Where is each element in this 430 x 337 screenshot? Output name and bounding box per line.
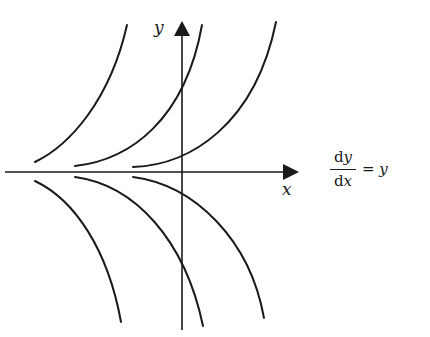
x-axis-label: x	[282, 179, 292, 199]
upper-curve-1	[35, 25, 127, 162]
fraction-bar	[330, 169, 356, 170]
lower-curve-1	[35, 181, 121, 322]
lower-curve-2	[75, 177, 203, 326]
equation-denominator: dx	[328, 172, 358, 190]
slope-field-diagram: y x dy dx = y	[0, 0, 430, 337]
equation-rhs: = y	[362, 160, 388, 178]
y-axis-arrow-icon	[174, 21, 190, 36]
y-axis-label: y	[154, 17, 164, 37]
equation-numerator: dy	[328, 148, 358, 166]
x-axis-arrow-icon	[283, 164, 299, 180]
upper-curve-2	[75, 25, 202, 166]
lower-curve-3	[133, 177, 264, 318]
upper-curve-3	[133, 22, 276, 167]
